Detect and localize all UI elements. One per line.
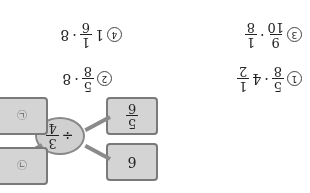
output-box-b: ㉡ bbox=[0, 97, 48, 135]
input-value: 6 bbox=[128, 154, 137, 170]
output-label: ㉡ bbox=[17, 109, 27, 124]
input-box-fraction: 5 6 bbox=[106, 97, 158, 135]
option-2[interactable]: 2 58 · 8 bbox=[62, 65, 112, 93]
input-fraction: 5 6 bbox=[126, 102, 138, 130]
option-1[interactable]: 1 58 · 4 12 bbox=[237, 65, 302, 93]
divisor-fraction: 3 4 bbox=[47, 122, 59, 150]
divide-operator: ÷ bbox=[62, 128, 74, 144]
option-3[interactable]: 3 910 · 18 bbox=[245, 21, 302, 49]
problem-figure: 6 5 6 ÷ 3 4 ㉠ ㉡ 1 58 · 4 12 2 58 · 8 bbox=[0, 0, 310, 193]
output-label: ㉠ bbox=[17, 159, 27, 174]
input-box-whole: 6 bbox=[106, 143, 158, 181]
output-box-a: ㉠ bbox=[0, 147, 48, 185]
option-4[interactable]: 4 1 16 · 8 bbox=[60, 21, 122, 49]
